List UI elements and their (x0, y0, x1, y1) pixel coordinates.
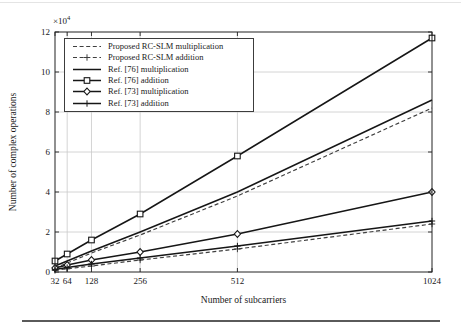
legend: Proposed RC-SLM multiplicationProposed R… (64, 38, 254, 112)
legend-sample-dashed (72, 42, 102, 51)
plus-marker (84, 55, 90, 61)
x-tick-label: 64 (63, 276, 73, 286)
y-tick-label: 6 (46, 147, 51, 157)
square-marker (235, 153, 241, 159)
y-exponent-base: ×10 (53, 16, 67, 26)
legend-item-ref-73-multiplication: Ref. [73] multiplication (72, 86, 251, 97)
legend-sample-dashed-plus (72, 53, 102, 62)
x-tick-label: 1024 (423, 276, 442, 286)
y-tick-label: 12 (41, 27, 50, 37)
legend-sample-solid-plus (72, 99, 102, 108)
square-marker (84, 78, 90, 84)
diamond-marker (84, 89, 90, 96)
series-line (55, 108, 432, 268)
legend-label: Ref. [73] addition (108, 98, 169, 109)
legend-item-proposed-rc-slm-multiplication: Proposed RC-SLM multiplication (72, 41, 251, 52)
series-ref-76-multiplication (55, 100, 432, 266)
x-tick-label: 32 (51, 276, 60, 286)
legend-label: Proposed RC-SLM addition (108, 52, 203, 63)
x-tick-label: 256 (133, 276, 147, 286)
legend-item-ref-76-multiplication: Ref. [76] multiplication (72, 64, 251, 75)
legend-label: Ref. [73] multiplication (108, 86, 189, 97)
square-marker (137, 211, 143, 217)
series-line (55, 224, 432, 270)
y-axis-title: Number of complex operations (8, 93, 18, 211)
y-axis-exponent-label: ×104 (53, 14, 70, 26)
legend-item-proposed-rc-slm-addition: Proposed RC-SLM addition (72, 52, 251, 63)
y-tick-label: 4 (46, 187, 51, 197)
y-tick-label: 10 (41, 67, 51, 77)
x-tick-label: 128 (85, 276, 99, 286)
y-tick-label: 8 (46, 107, 51, 117)
legend-item-ref-73-addition: Ref. [73] addition (72, 98, 251, 109)
bottom-rule (22, 320, 440, 322)
y-tick-label: 0 (46, 267, 51, 277)
plus-marker (84, 100, 90, 106)
series-line (55, 100, 432, 266)
diamond-marker (137, 249, 143, 256)
series-proposed-rc-slm-multiplication (55, 108, 432, 268)
legend-sample-solid-diamond (72, 87, 102, 96)
figure: 32641282565121024024681012 ×104 Number o… (0, 0, 461, 331)
legend-sample-solid-square (72, 76, 102, 85)
square-marker (89, 237, 95, 243)
x-axis-title: Number of subcarriers (55, 295, 432, 305)
y-tick-label: 2 (46, 227, 51, 237)
legend-label: Ref. [76] multiplication (108, 64, 189, 75)
legend-label: Ref. [76] addition (108, 75, 169, 86)
legend-item-ref-76-addition: Ref. [76] addition (72, 75, 251, 86)
series-ref-73-addition (52, 218, 435, 273)
legend-sample-solid (72, 65, 102, 74)
x-tick-label: 512 (231, 276, 245, 286)
y-exponent-power: 4 (67, 14, 70, 21)
legend-label: Proposed RC-SLM multiplication (108, 41, 223, 52)
square-marker (64, 251, 70, 257)
